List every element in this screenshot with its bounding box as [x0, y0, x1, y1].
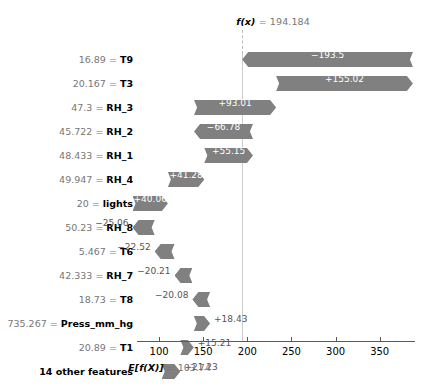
- equals-sign: =: [92, 126, 106, 137]
- feature-value: 42.333: [59, 270, 92, 281]
- waterfall-row: 50.23 = RH_8−25.06: [0, 216, 436, 240]
- equals-sign: =: [92, 174, 106, 185]
- prediction-annotation: f(x) = 194.184: [236, 16, 310, 27]
- shap-bar: [192, 292, 210, 307]
- x-tick: [203, 337, 204, 341]
- feature-value: 18.73: [79, 294, 106, 305]
- feature-name: lights: [103, 198, 133, 209]
- x-tick-label: 200: [222, 346, 272, 357]
- feature-value: 50.23: [65, 222, 92, 233]
- efx-symbol: E[f(X)]: [128, 362, 163, 373]
- row-label: 735.267 = Press_mm_hg: [7, 312, 133, 336]
- x-tick-label: 250: [266, 346, 316, 357]
- row-label: 48.433 = RH_1: [59, 144, 133, 168]
- waterfall-row: 49.947 = RH_4+41.28: [0, 168, 436, 192]
- x-tick-label: 300: [311, 346, 361, 357]
- shap-value-label: −22.52: [113, 240, 151, 255]
- waterfall-row: 48.433 = RH_1+55.15: [0, 144, 436, 168]
- shap-value-label: +40.06: [133, 192, 168, 207]
- fx-equals: =: [259, 16, 267, 27]
- waterfall-row: 42.333 = RH_7−20.21: [0, 264, 436, 288]
- row-label: 14 other features: [39, 360, 133, 384]
- waterfall-row: 14 other features+21.23: [0, 360, 436, 384]
- fx-value: 194.184: [270, 16, 310, 27]
- fx-symbol: f(x): [236, 16, 255, 27]
- row-label: 45.722 = RH_2: [59, 120, 133, 144]
- row-label: 16.89 = T9: [79, 48, 133, 72]
- feature-name: Press_mm_hg: [61, 318, 133, 329]
- x-tick: [159, 337, 160, 341]
- shap-value-label: +93.01: [194, 96, 276, 111]
- waterfall-row: 16.89 = T9−193.5: [0, 48, 436, 72]
- shap-value-label: +41.28: [168, 168, 204, 183]
- efx-equals: =: [167, 362, 175, 373]
- feature-value: 20: [77, 198, 89, 209]
- row-label: 20.89 = T1: [79, 336, 133, 360]
- shap-value-label: −193.5: [242, 48, 413, 63]
- shap-value-label: +155.02: [276, 72, 413, 87]
- x-tick: [380, 337, 381, 341]
- feature-value: 16.89: [79, 54, 106, 65]
- feature-name: T8: [120, 294, 133, 305]
- equals-sign: =: [106, 78, 120, 89]
- row-label: 18.73 = T8: [79, 288, 133, 312]
- shap-value-label: +18.43: [214, 312, 247, 327]
- feature-value: 735.267: [7, 318, 46, 329]
- row-label: 47.3 = RH_3: [71, 96, 133, 120]
- waterfall-row: 20.167 = T3+155.02: [0, 72, 436, 96]
- equals-sign: =: [92, 150, 106, 161]
- waterfall-row: 735.267 = Press_mm_hg+18.43: [0, 312, 436, 336]
- shap-value-label: +55.15: [204, 144, 253, 159]
- waterfall-row: 45.722 = RH_2−66.78: [0, 120, 436, 144]
- waterfall-row: 20 = lights+40.06: [0, 192, 436, 216]
- x-tick-label: 150: [178, 346, 228, 357]
- shap-value-label: −20.08: [150, 288, 188, 303]
- feature-name: T9: [120, 54, 133, 65]
- shap-value-label: −20.21: [133, 264, 171, 279]
- feature-value: 20.167: [73, 78, 106, 89]
- feature-name: RH_7: [106, 270, 133, 281]
- x-tick: [247, 337, 248, 341]
- equals-sign: =: [89, 198, 103, 209]
- feature-value: 20.89: [79, 342, 106, 353]
- x-tick: [336, 337, 337, 341]
- equals-sign: =: [106, 54, 120, 65]
- feature-value: 49.947: [59, 174, 92, 185]
- feature-value: 45.722: [59, 126, 92, 137]
- equals-sign: =: [106, 342, 120, 353]
- row-label: 20 = lights: [77, 192, 133, 216]
- feature-name: RH_2: [106, 126, 133, 137]
- shap-bar: [194, 316, 210, 331]
- shap-waterfall-plot: f(x) = 194.184 16.89 = T9−193.520.167 = …: [0, 0, 436, 386]
- feature-name: RH_3: [106, 102, 133, 113]
- feature-name: RH_1: [106, 150, 133, 161]
- feature-value: 47.3: [71, 102, 92, 113]
- x-tick-label: 350: [355, 346, 405, 357]
- waterfall-row: 5.467 = T6−22.52: [0, 240, 436, 264]
- feature-name: T1: [120, 342, 133, 353]
- shap-value-label: −66.78: [194, 120, 253, 135]
- shap-bar: [155, 244, 175, 259]
- shap-bar: [133, 220, 155, 235]
- shap-value-label: −25.06: [91, 216, 129, 231]
- feature-value: 48.433: [59, 150, 92, 161]
- x-tick: [291, 337, 292, 341]
- feature-name: RH_4: [106, 174, 133, 185]
- row-label: 42.333 = RH_7: [59, 264, 133, 288]
- equals-sign: =: [47, 318, 61, 329]
- base-value-annotation: E[f(X)] = 103.74: [128, 362, 211, 373]
- feature-value: 5.467: [79, 246, 106, 257]
- x-tick-label: 100: [134, 346, 184, 357]
- waterfall-row: 18.73 = T8−20.08: [0, 288, 436, 312]
- row-label: 49.947 = RH_4: [59, 168, 133, 192]
- feature-name: T3: [120, 78, 133, 89]
- equals-sign: =: [92, 270, 106, 281]
- feature-name: 14 other features: [39, 366, 133, 377]
- equals-sign: =: [106, 294, 120, 305]
- equals-sign: =: [92, 102, 106, 113]
- row-label: 20.167 = T3: [73, 72, 133, 96]
- efx-value: 103.74: [178, 362, 211, 373]
- x-axis-line: [137, 341, 415, 342]
- shap-bar: [175, 268, 193, 283]
- waterfall-row: 47.3 = RH_3+93.01: [0, 96, 436, 120]
